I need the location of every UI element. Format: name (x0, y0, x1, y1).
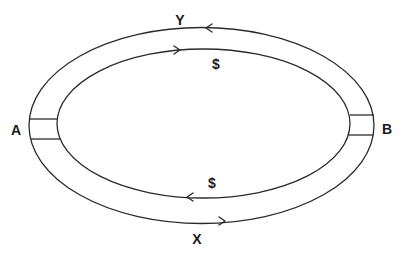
inner-flow-ring (57, 49, 350, 198)
node-a-connector (30, 119, 60, 139)
label-node-a: A (11, 123, 21, 137)
circular-flow-diagram (0, 0, 403, 257)
arrow-left-icon (187, 193, 193, 201)
label-money-bottom: $ (208, 176, 216, 190)
label-x: X (192, 232, 201, 246)
node-b-connector (348, 115, 374, 135)
outer-flow-ring (29, 28, 374, 224)
arrow-right-icon (219, 217, 225, 225)
label-y: Y (175, 13, 184, 27)
label-money-top: $ (212, 57, 220, 71)
label-node-b: B (382, 122, 392, 136)
